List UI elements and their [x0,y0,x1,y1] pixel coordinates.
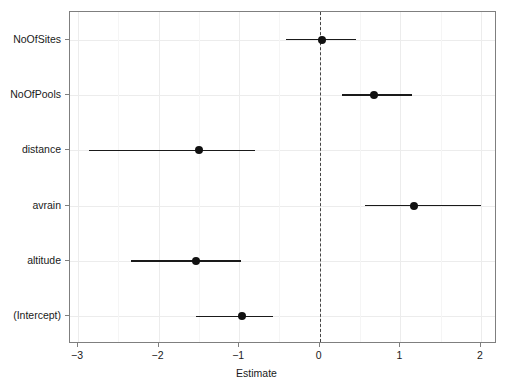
y-tick-mark [65,205,69,206]
y-tick-mark [65,94,69,95]
y-tick-label-avrain: avrain [0,199,61,211]
y-tick-label-altitude: altitude [0,254,61,266]
point-estimate-marker [410,202,418,210]
y-tick-label-noofsites: NoOfSites [0,33,61,45]
gridline-vertical [239,12,240,342]
y-tick-mark [65,260,69,261]
gridline-vertical-minor [360,12,361,342]
x-tick-mark [480,343,481,347]
x-tick-mark [319,343,320,347]
x-tick-label: 1 [396,349,402,361]
x-tick-mark [158,343,159,347]
y-tick-mark [65,149,69,150]
x-tick-mark [77,343,78,347]
y-tick-mark [65,39,69,40]
gridline-vertical-minor [441,12,442,342]
gridline-vertical-minor [199,12,200,342]
y-tick-label-distance: distance [0,143,61,155]
confidence-interval-bar [365,205,481,206]
gridline-vertical-minor [118,12,119,342]
x-tick-label: −2 [152,349,164,361]
x-tick-label: 0 [316,349,322,361]
point-estimate-marker [195,146,203,154]
gridline-horizontal [70,316,495,317]
confidence-interval-bar [89,150,255,151]
point-estimate-marker [238,312,246,320]
confidence-interval-bar [131,260,241,261]
gridline-horizontal [70,95,495,96]
x-tick-label: −1 [232,349,244,361]
y-tick-mark [65,315,69,316]
gridline-vertical [159,12,160,342]
confidence-interval-bar [196,316,273,317]
x-tick-mark [399,343,400,347]
gridline-vertical [78,12,79,342]
gridline-vertical [400,12,401,342]
gridline-vertical-minor [279,12,280,342]
coefficient-plot: NoOfSitesNoOfPoolsdistanceavrainaltitude… [0,0,513,387]
x-tick-label: 2 [477,349,483,361]
y-tick-label-intercept: (Intercept) [0,309,61,321]
zero-reference-line [320,12,321,342]
x-tick-mark [238,343,239,347]
point-estimate-marker [370,91,378,99]
gridline-vertical [481,12,482,342]
y-tick-label-noofpools: NoOfPools [0,88,61,100]
point-estimate-marker [318,36,326,44]
x-axis-title: Estimate [0,367,513,379]
x-tick-label: −3 [71,349,83,361]
plot-panel [69,11,496,343]
gridline-horizontal [70,40,495,41]
